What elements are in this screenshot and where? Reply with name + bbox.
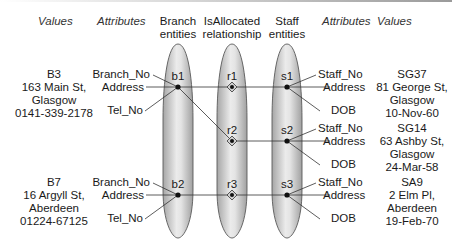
staff-s1-values: SG37 81 George St, Glasgow 10-Nov-60 [372, 68, 452, 120]
staff-s2-attr-address: Address [323, 135, 365, 148]
header-branch-line2: entities [158, 28, 198, 41]
header-relationship-line2: relationship [200, 28, 264, 41]
branch-b1-attr-address: Address [80, 81, 144, 94]
value-address-city: Aberdeen [372, 202, 452, 215]
node-label-b1: b1 [168, 70, 188, 82]
branch-b2-attr-branch-no: Branch_No [80, 176, 150, 189]
value-address-street: 63 Ashby St, [372, 135, 452, 148]
node-label-b2: b2 [168, 178, 188, 190]
node-s2-dot [284, 138, 289, 143]
staff-s1-attr-address: Address [323, 81, 365, 94]
staff-s1-attr-staff-no: Staff_No [318, 68, 363, 81]
value-staff-no: SG14 [372, 122, 452, 135]
branch-b2-attr-address: Address [80, 189, 144, 202]
node-label-r2: r2 [222, 124, 242, 136]
header-left-attributes: Attributes [97, 15, 146, 28]
header-relationship: IsAllocated relationship [200, 15, 264, 41]
header-relationship-line1: IsAllocated [200, 15, 264, 28]
node-label-s1: s1 [277, 70, 297, 82]
node-label-s3: s3 [277, 178, 297, 190]
header-left-values: Values [38, 15, 73, 28]
branch-b1-attr-branch-no: Branch_No [80, 68, 150, 81]
staff-s1-attr-dob: DOB [331, 104, 356, 117]
staff-s2-attr-dob: DOB [331, 158, 356, 171]
node-b1-dot [175, 84, 180, 89]
value-address-city: Glasgow [372, 148, 452, 161]
node-s1-dot [284, 84, 289, 89]
staff-s3-attr-address: Address [323, 189, 365, 202]
node-b2-dot [175, 192, 180, 197]
header-staff-entities: Staff entities [266, 15, 308, 41]
node-s3-dot [284, 192, 289, 197]
staff-s3-attr-staff-no: Staff_No [318, 176, 363, 189]
branch-b1-attr-tel-no: Tel_No [80, 104, 143, 117]
staff-s3-attr-dob: DOB [331, 212, 356, 225]
header-branch-entities: Branch entities [158, 15, 198, 41]
staff-s2-values: SG14 63 Ashby St, Glasgow 24-Mar-58 [372, 122, 452, 174]
value-address-street: 81 George St, [372, 81, 452, 94]
header-right-values: Values [377, 15, 412, 28]
value-dob: 10-Nov-60 [372, 107, 452, 120]
staff-s2-attr-staff-no: Staff_No [318, 122, 363, 135]
node-label-r1: r1 [222, 70, 242, 82]
branch-b2-attr-tel-no: Tel_No [80, 212, 143, 225]
node-label-r3: r3 [222, 178, 242, 190]
header-branch-line1: Branch [158, 15, 198, 28]
header-staff-line1: Staff [266, 15, 308, 28]
value-staff-no: SG37 [372, 68, 452, 81]
node-label-s2: s2 [277, 124, 297, 136]
value-dob: 24-Mar-58 [372, 161, 452, 174]
value-address-street: 2 Elm Pl, [372, 189, 452, 202]
staff-s3-values: SA9 2 Elm Pl, Aberdeen 19-Feb-70 [372, 176, 452, 228]
value-staff-no: SA9 [372, 176, 452, 189]
header-right-attributes: Attributes [322, 15, 371, 28]
header-staff-line2: entities [266, 28, 308, 41]
value-address-city: Glasgow [372, 94, 452, 107]
value-dob: 19-Feb-70 [372, 215, 452, 228]
